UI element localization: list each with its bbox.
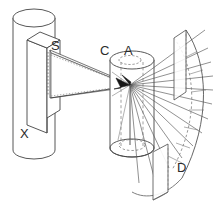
label-aperture: A <box>124 43 133 58</box>
arc-ruling-6 <box>184 127 198 130</box>
line-diagram: X S C A D <box>0 0 215 217</box>
label-collimator: C <box>100 43 109 58</box>
arc-ruling-7 <box>176 143 190 148</box>
label-slit: S <box>51 38 60 53</box>
label-source-cylinder: X <box>20 126 29 141</box>
detector-panel-lower <box>153 144 168 200</box>
detector-panel-upper <box>174 30 186 100</box>
label-detector: D <box>177 160 186 175</box>
slit-block-front-face <box>27 40 47 133</box>
arc-ruling-3 <box>190 70 203 74</box>
diagram-canvas: X S C A D <box>0 0 215 217</box>
source-cylinder-top-ellipse <box>13 9 55 27</box>
